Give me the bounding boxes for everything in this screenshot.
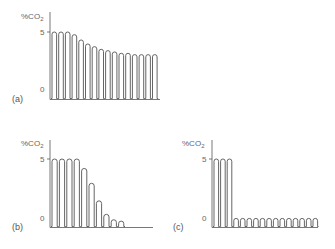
panel-label-c: (c) (173, 222, 184, 232)
capnogram-figure: %CO2 5 0 (a) %CO2 5 0 (b) %CO2 5 0 (c) (0, 0, 335, 249)
y-axis-label-c: %CO2 (182, 139, 205, 149)
waveform-b (51, 159, 125, 227)
tick-label-5-c: 5 (202, 155, 207, 164)
panel-a: %CO2 5 0 (a) (12, 12, 160, 104)
tick-label-5-a: 5 (40, 28, 45, 37)
y-axis-label-b: %CO2 (21, 139, 44, 149)
waveform-a (51, 32, 158, 99)
tick-label-0-a: 0 (40, 85, 45, 94)
waveform-c (213, 159, 319, 227)
y-axis-label-a: %CO2 (21, 12, 44, 22)
panel-b: %CO2 5 0 (b) (12, 139, 153, 232)
tick-label-0-b: 0 (40, 214, 45, 223)
panel-c: %CO2 5 0 (c) (173, 139, 319, 232)
tick-label-5-b: 5 (40, 155, 45, 164)
tick-label-0-c: 0 (202, 214, 207, 223)
panel-label-b: (b) (12, 222, 23, 232)
panel-label-a: (a) (12, 94, 23, 104)
